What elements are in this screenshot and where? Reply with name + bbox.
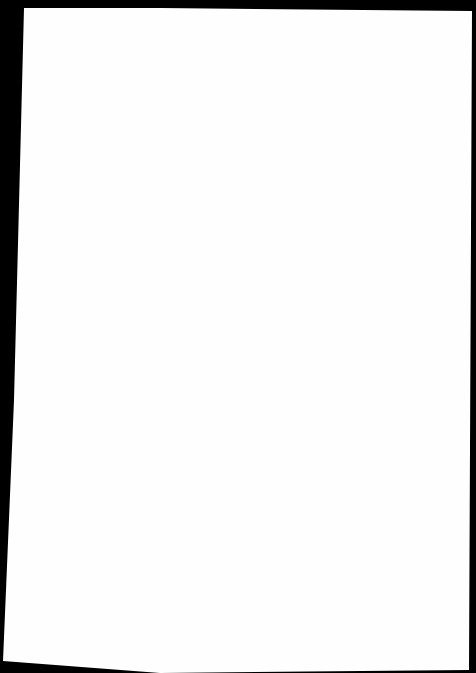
blank-paper-sheet bbox=[0, 0, 476, 673]
